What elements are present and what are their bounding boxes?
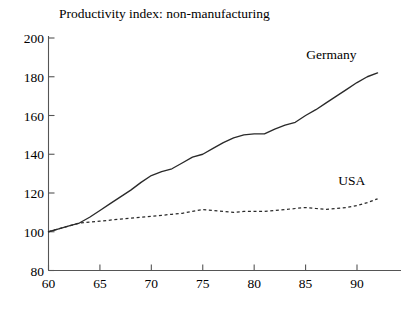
- series-label-group: GermanyUSA: [306, 47, 365, 188]
- productivity-index-line-chart: Productivity index: non-manufacturing 80…: [0, 0, 418, 315]
- series-label-germany: Germany: [306, 47, 356, 62]
- x-tick-label-90: 90: [350, 276, 364, 291]
- x-tick-label-70: 70: [145, 276, 159, 291]
- x-tick-label-85: 85: [299, 276, 313, 291]
- series-group: [49, 73, 378, 232]
- y-tick-group: 80100120140160180200: [24, 31, 55, 279]
- series-line-germany: [49, 73, 378, 232]
- y-tick-label-140: 140: [24, 147, 45, 162]
- x-tick-label-60: 60: [42, 276, 56, 291]
- x-tick-group: 60657075808590: [42, 265, 364, 292]
- series-line-usa: [49, 199, 378, 232]
- chart-title: Productivity index: non-manufacturing: [59, 6, 270, 21]
- y-tick-label-160: 160: [24, 109, 45, 124]
- x-tick-label-80: 80: [247, 276, 261, 291]
- x-tick-label-65: 65: [93, 276, 107, 291]
- x-tick-label-75: 75: [196, 276, 210, 291]
- series-label-usa: USA: [338, 173, 365, 188]
- y-tick-label-180: 180: [24, 70, 45, 85]
- y-tick-label-200: 200: [24, 31, 45, 46]
- y-tick-label-100: 100: [24, 225, 45, 240]
- y-tick-label-120: 120: [24, 186, 45, 201]
- chart-container: Productivity index: non-manufacturing 80…: [0, 0, 418, 315]
